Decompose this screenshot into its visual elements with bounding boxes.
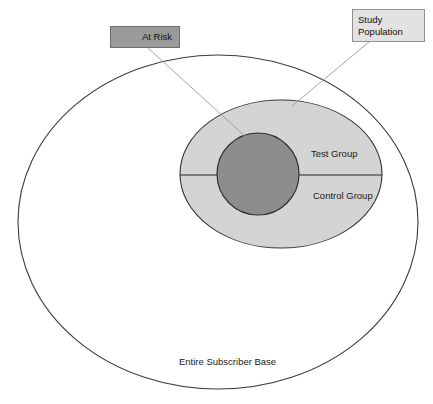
at-risk-callout-label: At Risk <box>142 31 172 43</box>
study-population-callout-label-line2: Population <box>358 26 403 38</box>
at-risk-circle <box>217 133 299 215</box>
test-group-label: Test Group <box>311 148 357 159</box>
entire-subscriber-base-label: Entire Subscriber Base <box>179 356 276 367</box>
at-risk-callout-box: At Risk <box>110 26 180 48</box>
venn-diagram-canvas: Test Group Control Group Entire Subscrib… <box>0 0 433 404</box>
venn-diagram-svg: Test Group Control Group Entire Subscrib… <box>0 0 433 404</box>
study-population-callout-label-line1: Study <box>358 14 403 26</box>
study-population-callout-box: Study Population <box>352 9 425 42</box>
control-group-label: Control Group <box>313 190 373 201</box>
